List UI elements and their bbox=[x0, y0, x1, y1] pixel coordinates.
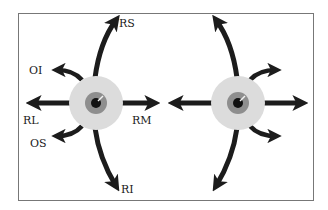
label-inferior-oblique: OI bbox=[29, 64, 42, 77]
label-medial-rectus: RM bbox=[132, 114, 152, 127]
eye-muscle-diagram: RS OI RL RM OS RI bbox=[0, 0, 328, 210]
label-inferior-rectus: RI bbox=[121, 183, 134, 196]
label-lateral-rectus: RL bbox=[23, 114, 39, 127]
label-superior-oblique: OS bbox=[30, 137, 47, 150]
label-superior-rectus: RS bbox=[119, 17, 135, 30]
figure-frame bbox=[19, 14, 314, 201]
